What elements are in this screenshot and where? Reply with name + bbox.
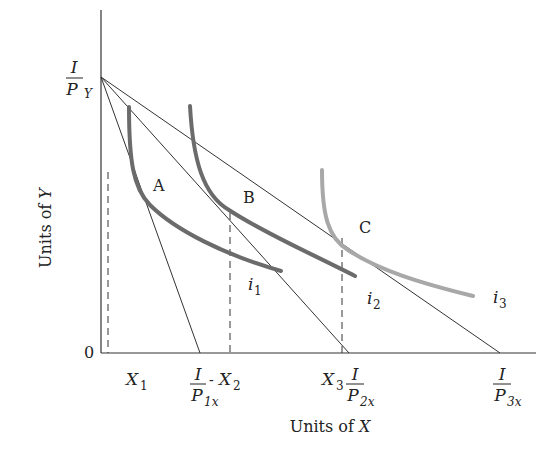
origin-label: 0 — [84, 343, 94, 362]
svg-text:P: P — [493, 385, 506, 405]
svg-text:i: i — [248, 274, 253, 294]
svg-text:1: 1 — [140, 379, 148, 393]
svg-text:i: i — [493, 287, 498, 307]
svg-text:X: X — [217, 369, 232, 389]
indifference-curve-i3 — [322, 170, 473, 296]
svg-text:I: I — [498, 364, 506, 384]
svg-text:1: 1 — [254, 284, 262, 298]
x3-label: X 3 — [320, 369, 344, 393]
svg-text:P: P — [65, 79, 78, 99]
svg-text:I: I — [351, 364, 359, 384]
curve-label-i1: i 1 — [248, 274, 262, 298]
budget-line-2 — [101, 77, 349, 353]
intercept-p2x-label: I P 2x — [346, 364, 375, 409]
x-axis-label: Units of X — [290, 417, 371, 436]
y-intercept-label: I P Y — [65, 57, 93, 101]
svg-text:1x: 1x — [204, 395, 219, 409]
intercept-p3x-label: I P 3x — [493, 364, 522, 409]
svg-text:Y: Y — [84, 87, 93, 101]
svg-text:X: X — [124, 369, 139, 389]
x1-label: X 1 — [124, 369, 148, 393]
svg-text:P: P — [346, 385, 359, 405]
svg-text:i: i — [367, 288, 372, 308]
price-consumption-diagram: I P Y 0 Units of Y Units of X X 1 I P 1x… — [0, 0, 557, 458]
svg-text:-: - — [209, 372, 214, 388]
point-c-label: C — [359, 218, 371, 237]
y-axis-label: Units of Y — [36, 187, 55, 268]
svg-text:I: I — [194, 364, 202, 384]
point-b-label: B — [243, 188, 255, 207]
svg-text:3: 3 — [336, 379, 344, 393]
curve-label-i3: i 3 — [493, 287, 507, 311]
svg-text:I: I — [70, 57, 78, 77]
svg-text:2x: 2x — [359, 395, 375, 409]
indifference-curve-i2 — [190, 106, 355, 276]
point-a-label: A — [152, 176, 165, 195]
svg-text:2: 2 — [233, 379, 241, 393]
curve-label-i2: i 2 — [367, 288, 381, 312]
svg-text:2: 2 — [373, 298, 381, 312]
svg-text:3: 3 — [499, 297, 507, 311]
x2-label: X 2 — [217, 369, 241, 393]
svg-text:3x: 3x — [507, 395, 522, 409]
intercept-p1x-label: I P 1x - — [190, 364, 219, 409]
budget-line-1 — [101, 77, 200, 353]
svg-text:P: P — [190, 385, 203, 405]
indifference-curve-i1 — [129, 107, 281, 271]
svg-text:X: X — [320, 369, 335, 389]
